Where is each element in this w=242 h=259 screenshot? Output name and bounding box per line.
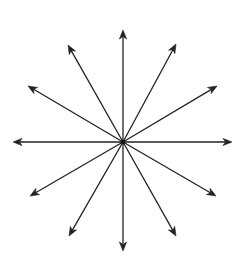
arrowhead-icon xyxy=(28,86,38,94)
arrow-90deg xyxy=(119,30,126,142)
arrow-neg30deg xyxy=(123,142,216,196)
arrow-neg120deg xyxy=(69,142,123,236)
arrow-120deg xyxy=(68,45,123,142)
arrowhead-icon xyxy=(69,226,77,236)
arrow-shaft xyxy=(72,142,123,230)
arrow-shaft xyxy=(123,50,173,142)
arrow-shaft xyxy=(123,142,210,193)
center-point xyxy=(121,140,125,144)
arrow-shaft xyxy=(123,89,211,142)
arrowhead-icon xyxy=(206,188,216,196)
arrowhead-icon xyxy=(68,45,76,55)
radiating-arrows-diagram xyxy=(0,0,242,259)
arrow-neg60deg xyxy=(123,142,176,236)
arrow-shaft xyxy=(71,51,123,142)
arrow-0deg xyxy=(123,138,232,145)
arrowhead-icon xyxy=(168,226,176,236)
arrow-60deg xyxy=(123,44,176,142)
arrow-30deg xyxy=(123,86,217,142)
arrow-shaft xyxy=(34,89,123,142)
arrow-150deg xyxy=(28,86,123,142)
arrow-shaft xyxy=(36,142,123,193)
arrowhead-icon xyxy=(30,188,40,196)
arrow-shaft xyxy=(123,142,173,230)
arrow-neg150deg xyxy=(30,142,123,196)
arrow-neg90deg xyxy=(119,142,126,251)
arrowhead-icon xyxy=(207,86,217,94)
arrow-180deg xyxy=(13,138,123,145)
